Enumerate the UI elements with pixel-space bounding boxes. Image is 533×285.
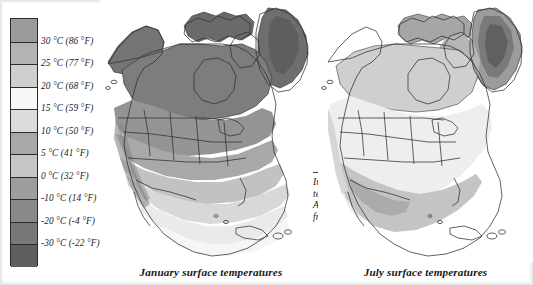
legend-band-10 [11,244,37,267]
legend-band-2 [11,64,37,87]
legend-label-3: 20 °C (68 °F) [41,81,93,91]
legend-color-bar [10,18,38,266]
legend-band-5 [11,132,37,155]
legend-label-6: 5 °C (41 °F) [41,148,89,158]
legend-band-9 [11,222,37,245]
january-temperature-map [100,0,322,262]
legend-label-5: 10 °C (50 °F) [41,126,93,136]
map-panel-january: In January most of the temperate parts o… [100,0,322,285]
caption-january: January surface temperatures [100,266,322,278]
legend-band-3 [11,87,37,110]
map-panel-july: In July only polar regions have frost – … [318,0,533,285]
legend-band-4 [11,109,37,132]
legend-label-4: 15 °C (59 °F) [41,103,93,113]
temperature-legend: 30 °C (86 °F)25 °C (77 °F)20 °C (68 °F)1… [10,18,38,266]
legend-label-10: -30 °C (-22 °F) [41,238,100,248]
july-temperature-map [318,0,533,262]
caption-july: July surface temperatures [318,266,533,278]
legend-label-9: -20 °C (-4 °F) [41,216,95,226]
legend-band-0 [11,19,37,42]
figure-root: 30 °C (86 °F)25 °C (77 °F)20 °C (68 °F)1… [0,0,533,285]
legend-label-7: 0 °C (32 °F) [41,171,89,181]
legend-band-8 [11,199,37,222]
legend-label-2: 25 °C (77 °F) [41,58,93,68]
legend-label-8: -10 °C (14 °F) [41,193,97,203]
legend-band-6 [11,154,37,177]
legend-band-7 [11,177,37,200]
legend-label-1: 30 °C (86 °F) [41,36,93,46]
legend-band-1 [11,42,37,65]
